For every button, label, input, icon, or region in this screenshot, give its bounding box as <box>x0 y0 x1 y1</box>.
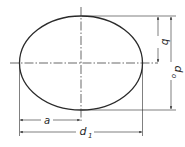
label-d1: d <box>80 125 88 138</box>
label-d0: d <box>172 66 185 74</box>
label-d1-subscript: 1 <box>88 132 92 140</box>
ellipse-dimension-drawing: b d o a d 1 <box>0 0 185 147</box>
label-b: b <box>160 39 171 45</box>
label-d0-subscript: o <box>170 74 178 78</box>
label-a: a <box>44 115 50 126</box>
